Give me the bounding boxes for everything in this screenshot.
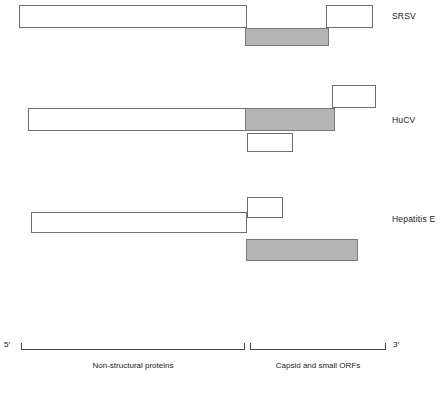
- srsv-orf2-box: [245, 28, 329, 46]
- axis-segment-capsid: [250, 343, 386, 350]
- axis-segment-non-structural: [21, 343, 245, 350]
- hepatitis-e-orf3-box: [247, 197, 283, 218]
- hepatitis-e-orf2-box: [246, 239, 358, 261]
- hucv-orf1-box: [28, 108, 246, 131]
- hepatitis-e-orf1-box: [31, 212, 247, 233]
- three-prime-label: 3′: [393, 341, 399, 349]
- axis-caption-capsid: Capsid and small ORFs: [250, 362, 386, 370]
- srsv-orf3-box: [326, 5, 373, 28]
- virus-label-hepatitis-e: Hepatitis E: [392, 215, 435, 224]
- virus-label-hucv: HuCV: [392, 116, 415, 125]
- hucv-orf3-box: [332, 85, 376, 108]
- hucv-orf2-box: [245, 108, 335, 131]
- srsv-orf1-box: [19, 5, 247, 28]
- axis-caption-non-structural: Non-structural proteins: [21, 362, 245, 370]
- genome-organization-figure: SRSV HuCV Hepatitis E 5′ Non-structural …: [0, 0, 448, 393]
- hucv-orf4-box: [247, 133, 293, 152]
- five-prime-label: 5′: [4, 341, 10, 349]
- virus-label-srsv: SRSV: [392, 12, 416, 21]
